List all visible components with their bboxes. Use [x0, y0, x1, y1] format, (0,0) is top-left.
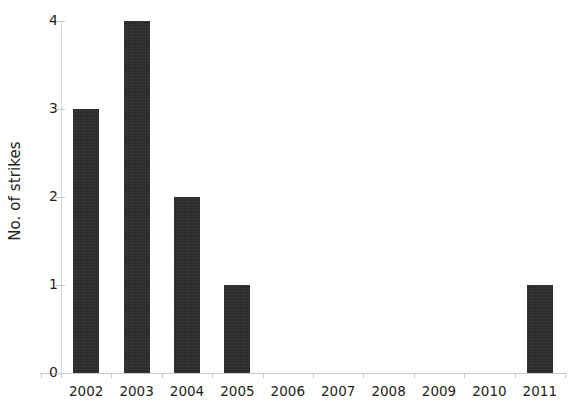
bar-2011	[527, 285, 553, 373]
y-tick-label: 1	[0, 276, 58, 294]
bar-2003	[124, 21, 150, 373]
bar-2005	[224, 285, 250, 373]
x-tick-mark	[61, 373, 62, 378]
x-tick-label-2009: 2009	[414, 381, 464, 401]
x-tick-label-2002: 2002	[61, 381, 111, 401]
x-tick-label-2003: 2003	[111, 381, 161, 401]
x-tick-mark	[263, 373, 264, 378]
x-tick-mark	[111, 373, 112, 378]
x-tick-label-2004: 2004	[162, 381, 212, 401]
x-tick-mark	[313, 373, 314, 378]
x-tick-label-2006: 2006	[263, 381, 313, 401]
x-tick-label-2007: 2007	[313, 381, 363, 401]
y-tick-label: 2	[0, 188, 58, 206]
x-tick-mark	[162, 373, 163, 378]
y-axis-title: No. of strikes	[0, 0, 30, 412]
x-tick-mark-origin	[41, 373, 42, 378]
bar-2004	[174, 197, 200, 373]
x-tick-label-2010: 2010	[464, 381, 514, 401]
x-tick-mark	[363, 373, 364, 378]
x-tick-label-2005: 2005	[212, 381, 262, 401]
x-tick-mark	[212, 373, 213, 378]
x-axis-line	[40, 373, 565, 374]
x-tick-mark	[515, 373, 516, 378]
x-tick-label-2011: 2011	[515, 381, 565, 401]
y-tick-label: 0	[0, 364, 58, 382]
bar-chart: No. of strikes 01234 2002200320042005200…	[0, 0, 570, 412]
x-tick-mark	[565, 373, 566, 378]
y-tick-label: 4	[0, 12, 58, 30]
y-tick-label: 3	[0, 100, 58, 118]
x-tick-label-2008: 2008	[363, 381, 413, 401]
bar-2002	[73, 109, 99, 373]
x-tick-mark	[414, 373, 415, 378]
x-tick-mark	[464, 373, 465, 378]
plot-area	[61, 21, 565, 373]
